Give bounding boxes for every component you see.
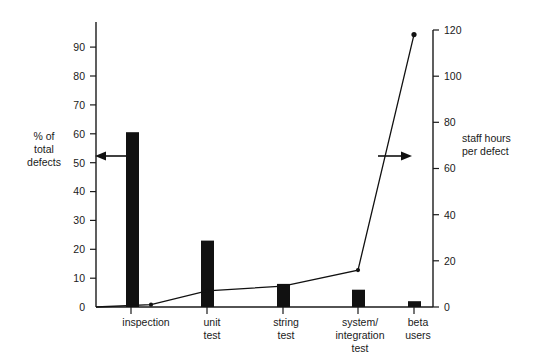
category-label-beta-users-line-2: users xyxy=(405,329,431,341)
right-tick-label-100: 100 xyxy=(444,70,462,82)
left-tick-label-90: 90 xyxy=(73,41,85,53)
right-tick-label-60: 60 xyxy=(444,162,456,174)
category-label-inspection: inspection xyxy=(122,316,169,328)
left-tick-label-10: 10 xyxy=(73,272,85,284)
left-tick-label-80: 80 xyxy=(73,70,85,82)
left-tick-label-60: 60 xyxy=(73,128,85,140)
point-unit-test xyxy=(205,289,209,293)
point-system-integration-test xyxy=(356,268,360,272)
right-tick-label-20: 20 xyxy=(444,255,456,267)
left-tick-label-0: 0 xyxy=(79,301,85,313)
left-tick-label-70: 70 xyxy=(73,99,85,111)
right-axis-title-line-1: staff hours xyxy=(462,132,511,144)
category-label-system-integration-test-line-3: test xyxy=(352,342,369,354)
right-axis-title-line-2: per defect xyxy=(462,145,509,157)
right-tick-label-120: 120 xyxy=(444,24,462,36)
category-label-system-integration-test-line-2: integration xyxy=(335,329,384,341)
chart-container: 90 80 70 60 50 40 30 20 10 0 % of total … xyxy=(0,0,537,364)
bar-system-integration-test xyxy=(352,290,365,307)
category-label-unit-test-line-1: unit xyxy=(204,316,221,328)
category-label-string-test-line-1: string xyxy=(273,316,299,328)
left-axis-title-line-1: % of xyxy=(33,130,54,142)
bar-beta-users xyxy=(408,301,421,307)
right-tick-label-40: 40 xyxy=(444,209,456,221)
left-tick-label-50: 50 xyxy=(73,157,85,169)
left-tick-label-30: 30 xyxy=(73,214,85,226)
point-string-test xyxy=(281,284,285,288)
point-beta-users xyxy=(411,32,416,37)
right-tick-label-80: 80 xyxy=(444,116,456,128)
left-axis-title-line-2: total xyxy=(34,143,54,155)
category-label-string-test-line-2: test xyxy=(278,329,295,341)
right-axis-title: staff hours per defect xyxy=(462,132,511,157)
bar-unit-test xyxy=(201,241,214,307)
category-label-unit-test-line-2: test xyxy=(204,329,221,341)
category-label-beta-users-line-1: beta xyxy=(408,316,429,328)
left-axis-title-line-3: defects xyxy=(27,156,61,168)
left-tick-label-20: 20 xyxy=(73,243,85,255)
right-tick-label-0: 0 xyxy=(444,301,450,313)
defect-removal-chart: 90 80 70 60 50 40 30 20 10 0 % of total … xyxy=(0,0,537,364)
bar-inspection xyxy=(126,132,139,307)
left-tick-label-40: 40 xyxy=(73,185,85,197)
point-inspection xyxy=(149,303,153,307)
category-label-system-integration-test-line-1: system/ xyxy=(342,316,378,328)
